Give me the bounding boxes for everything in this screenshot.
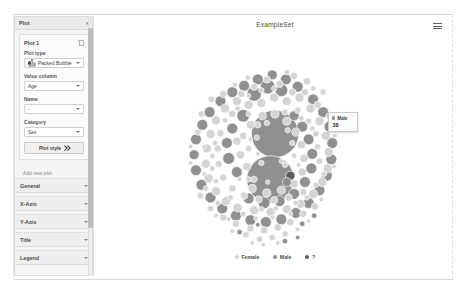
bubble[interactable] xyxy=(257,98,266,107)
bubble[interactable] xyxy=(260,217,271,228)
bubble[interactable] xyxy=(191,165,202,176)
bubble[interactable] xyxy=(321,171,326,176)
bubble[interactable] xyxy=(333,133,338,138)
bubble[interactable] xyxy=(283,117,291,125)
bubble[interactable] xyxy=(240,211,245,216)
bubble[interactable] xyxy=(276,80,283,87)
bubble[interactable] xyxy=(220,214,227,221)
bubble[interactable] xyxy=(288,212,293,217)
bubble[interactable] xyxy=(231,167,242,178)
bubble[interactable] xyxy=(263,189,271,197)
bubble[interactable] xyxy=(201,159,210,168)
sidebar-section-y-axis[interactable]: Y-Axis xyxy=(15,214,93,229)
hamburger-menu-icon[interactable] xyxy=(433,22,442,30)
bubble[interactable] xyxy=(255,196,262,203)
bubble[interactable] xyxy=(239,80,250,91)
bubble[interactable] xyxy=(256,236,262,242)
bubble[interactable] xyxy=(204,107,215,118)
bubble[interactable] xyxy=(284,69,289,74)
bubble[interactable] xyxy=(313,131,319,137)
bubble[interactable] xyxy=(227,87,238,98)
bubble[interactable] xyxy=(295,227,300,232)
plot-style-button[interactable]: Plot style xyxy=(24,142,84,154)
bubble[interactable] xyxy=(269,234,275,240)
bubble[interactable] xyxy=(290,140,295,145)
name-select[interactable]: - xyxy=(24,104,84,114)
bubble[interactable] xyxy=(301,89,308,96)
bubble[interactable] xyxy=(279,159,284,164)
bubble[interactable] xyxy=(237,177,242,182)
bubble[interactable] xyxy=(289,89,296,96)
trash-icon[interactable] xyxy=(78,39,84,46)
bubble[interactable] xyxy=(259,160,264,165)
bubble[interactable] xyxy=(226,217,231,222)
bubble[interactable] xyxy=(287,218,294,225)
bubble[interactable] xyxy=(250,83,257,90)
sidebar-section-title[interactable]: Title xyxy=(15,232,93,247)
bubble[interactable] xyxy=(291,153,296,158)
bubble[interactable] xyxy=(243,232,249,238)
bubble[interactable] xyxy=(254,135,259,140)
value-column-select[interactable]: Age xyxy=(24,81,84,91)
bubble[interactable] xyxy=(292,128,300,136)
bubble[interactable] xyxy=(251,176,257,182)
bubble[interactable] xyxy=(310,126,315,131)
bubble[interactable] xyxy=(236,151,244,159)
bubble[interactable] xyxy=(273,206,278,211)
bubble[interactable] xyxy=(297,141,305,149)
bubble[interactable] xyxy=(246,93,251,98)
bubble[interactable] xyxy=(310,86,315,91)
bubble[interactable] xyxy=(230,229,235,234)
bubble[interactable] xyxy=(240,192,247,199)
bubble[interactable] xyxy=(235,106,240,111)
bubble[interactable] xyxy=(215,200,220,205)
bubble[interactable] xyxy=(229,110,236,117)
bubble[interactable] xyxy=(246,111,251,116)
bubble[interactable] xyxy=(189,150,199,160)
bubble[interactable] xyxy=(332,164,337,169)
bubble[interactable] xyxy=(271,110,279,118)
sidebar-scroll-up-arrow[interactable] xyxy=(88,16,93,23)
bubble[interactable] xyxy=(271,86,276,91)
bubble[interactable] xyxy=(188,161,193,166)
legend-item-male[interactable]: Male xyxy=(273,254,291,260)
bubble[interactable] xyxy=(255,222,260,227)
bubble[interactable] xyxy=(232,97,241,106)
bubble[interactable] xyxy=(319,197,324,202)
bubble[interactable] xyxy=(243,163,251,171)
bubble[interactable] xyxy=(232,220,239,227)
bubble[interactable] xyxy=(282,109,288,115)
bubble[interactable] xyxy=(232,82,237,87)
bubble[interactable] xyxy=(247,225,254,232)
bubble[interactable] xyxy=(295,107,301,113)
bubble[interactable] xyxy=(222,118,227,123)
bubble[interactable] xyxy=(227,123,238,134)
packed-bubble-plot[interactable] xyxy=(100,34,450,252)
bubble[interactable] xyxy=(202,144,207,149)
bubble[interactable] xyxy=(215,160,222,167)
bubble[interactable] xyxy=(305,118,311,124)
bubble[interactable] xyxy=(233,203,242,212)
bubble[interactable] xyxy=(303,78,310,85)
bubble[interactable] xyxy=(300,210,307,217)
bubble[interactable] xyxy=(260,227,267,234)
bubble[interactable] xyxy=(197,119,208,130)
bubble[interactable] xyxy=(229,185,236,192)
bubble[interactable] xyxy=(238,90,245,97)
bubble[interactable] xyxy=(285,128,290,133)
bubble[interactable] xyxy=(282,97,291,106)
bubble[interactable] xyxy=(254,216,259,221)
bubble[interactable] xyxy=(275,241,280,246)
bubble[interactable] xyxy=(315,117,324,126)
bubble[interactable] xyxy=(298,168,306,176)
bubble[interactable] xyxy=(282,231,288,237)
bubble[interactable] xyxy=(245,75,250,80)
bubble[interactable] xyxy=(250,241,255,246)
bubble[interactable] xyxy=(248,184,256,192)
bubble[interactable] xyxy=(233,137,241,145)
legend-item-female[interactable]: Female xyxy=(235,254,259,260)
bubble[interactable] xyxy=(276,214,287,225)
bubble[interactable] xyxy=(300,188,307,195)
bubble[interactable] xyxy=(320,89,326,95)
bubble[interactable] xyxy=(197,193,203,199)
